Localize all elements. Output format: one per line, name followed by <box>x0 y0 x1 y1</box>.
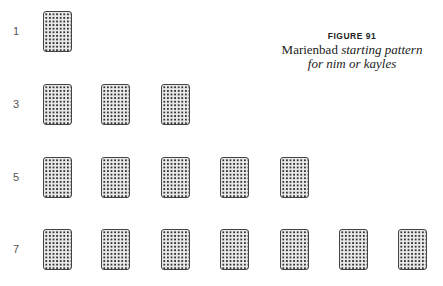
card-icon <box>101 157 130 198</box>
figure-caption: FIGURE 91 Marienbad starting pattern for… <box>262 31 442 71</box>
card-icon <box>43 11 72 52</box>
card-icon <box>280 229 309 270</box>
row-label: 5 <box>13 171 25 183</box>
card-icon <box>101 84 130 125</box>
card-icon <box>161 229 190 270</box>
row-label: 1 <box>13 25 25 37</box>
figure-title: Marienbad starting pattern for nim or ka… <box>262 43 442 71</box>
card-icon <box>101 229 130 270</box>
card-icon <box>161 157 190 198</box>
card-icon <box>43 84 72 125</box>
card-icon <box>43 229 72 270</box>
row-label: 3 <box>13 98 25 110</box>
card-icon <box>161 84 190 125</box>
row-label: 7 <box>13 243 25 255</box>
card-icon <box>398 229 427 270</box>
card-icon <box>43 157 72 198</box>
figure-title-italic-1: starting pattern <box>341 42 422 57</box>
card-icon <box>220 229 249 270</box>
figure-title-italic-2: for nim or kayles <box>308 56 396 71</box>
figure-number: FIGURE 91 <box>262 31 442 41</box>
card-icon <box>339 229 368 270</box>
card-icon <box>220 157 249 198</box>
figure-title-upright: Marienbad <box>282 42 342 57</box>
card-icon <box>280 157 309 198</box>
